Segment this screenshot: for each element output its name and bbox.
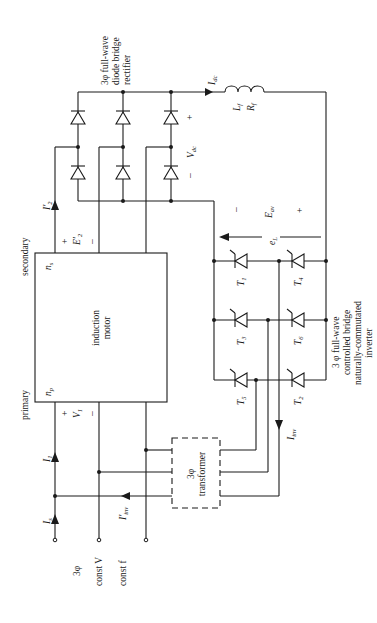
eav-minus-sign: – [231, 207, 241, 213]
v1-plus-sign: + [60, 411, 70, 416]
vdc-plus-sign: + [185, 115, 195, 120]
thyristor-t4-icon [287, 250, 304, 268]
transformer-label: 3φ [186, 468, 196, 479]
ns-label: ns [43, 262, 54, 270]
supply-label-3phase: 3φ [72, 565, 82, 576]
iinv-prime-label: I′inv [118, 507, 129, 521]
motor-box [35, 253, 167, 402]
secondary-leads: I′2 + E′2 – [42, 147, 171, 253]
diode-icon [116, 111, 130, 124]
diode-bridge-rectifier: 3φ full-wave diode bridge rectifier + Vd… [71, 36, 225, 203]
t3-label: T3 [236, 336, 247, 345]
diode-icon [164, 111, 178, 124]
iinv-prime-arrow-icon [121, 492, 130, 500]
diode-icon [71, 166, 85, 179]
iinv-arrow-icon [275, 420, 283, 430]
is-label: Is [42, 518, 53, 525]
induction-motor: induction motor ns np secondary primary [20, 237, 167, 420]
idc-arrow-icon [205, 88, 213, 96]
eav-label: Eav [264, 206, 275, 219]
diode-icon [164, 166, 178, 179]
primary-label: primary [20, 390, 30, 420]
iinv-label: Iinv [286, 429, 297, 441]
el-label: eL [267, 237, 278, 245]
e2p-plus-sign: + [60, 239, 70, 244]
e2p-label: E′2 [72, 233, 83, 246]
secondary-label: secondary [20, 237, 30, 276]
v1-label: V1 [72, 409, 83, 418]
inverter-label-line3: naturally-commutated [353, 301, 363, 385]
t6-label: T6 [293, 336, 304, 345]
v1-minus-sign: – [87, 411, 97, 417]
np-label: np [43, 387, 54, 396]
primary-leads: + V1 – I1 Is 3φ const V const f [42, 402, 148, 586]
motor-label-line2: motor [102, 316, 112, 340]
thyristor-t2-icon [287, 369, 304, 387]
transformer-label-line2: transformer [197, 451, 207, 496]
vdc-label: Vdc [186, 146, 197, 158]
dc-link: Idc Lf Rf – Eav + eL [205, 76, 326, 380]
inverter-label-line2: controlled bridge [342, 310, 352, 375]
idc-label: Idc [207, 76, 218, 86]
supply-label-const-f: const f [118, 560, 128, 586]
thyristor-t3-icon [230, 309, 247, 327]
inverter-label: 3 φ full-wave [331, 317, 341, 368]
supply-terminal-b [97, 538, 101, 542]
kramer-drive-circuit-diagram: 3φ full-wave diode bridge rectifier + Vd… [0, 0, 377, 623]
thyristor-t5-icon [230, 369, 247, 387]
eav-plus-sign: + [295, 208, 305, 213]
t2-label: T2 [293, 396, 304, 405]
i2p-label: I′2 [42, 201, 53, 211]
rf-label: Rf [246, 102, 257, 112]
inverter-label-line4: inverter [364, 328, 374, 358]
three-phase-transformer: 3φ transformer I′inv [53, 438, 220, 521]
vdc-minus-sign: – [185, 173, 195, 179]
diode-icon [116, 166, 130, 179]
el-arrow-icon [219, 233, 229, 241]
e2p-minus-sign: – [87, 239, 97, 245]
rectifier-label: 3φ full-wave [100, 36, 110, 85]
lf-label: Lf [232, 103, 243, 112]
supply-terminal-a [53, 538, 57, 542]
supply-terminal-c [144, 538, 148, 542]
thyristor-t6-icon [287, 309, 304, 327]
t1-label: T1 [236, 277, 247, 286]
motor-label: induction [91, 310, 101, 346]
rectifier-label-line2: diode bridge [111, 37, 121, 85]
thyristor-t1-icon [230, 250, 247, 268]
t5-label: T5 [236, 396, 247, 405]
thyristor-inverter: T1 T4 T3 T6 T5 T2 3 φ full-wave controll… [212, 201, 374, 496]
transformer-box [172, 438, 220, 508]
supply-label-const-v: const V [94, 557, 104, 586]
rectifier-label-line3: rectifier [122, 54, 132, 85]
diode-icon [71, 111, 85, 124]
t4-label: T4 [293, 277, 304, 286]
i1-label: I1 [42, 456, 53, 463]
inductor-icon [225, 86, 264, 92]
